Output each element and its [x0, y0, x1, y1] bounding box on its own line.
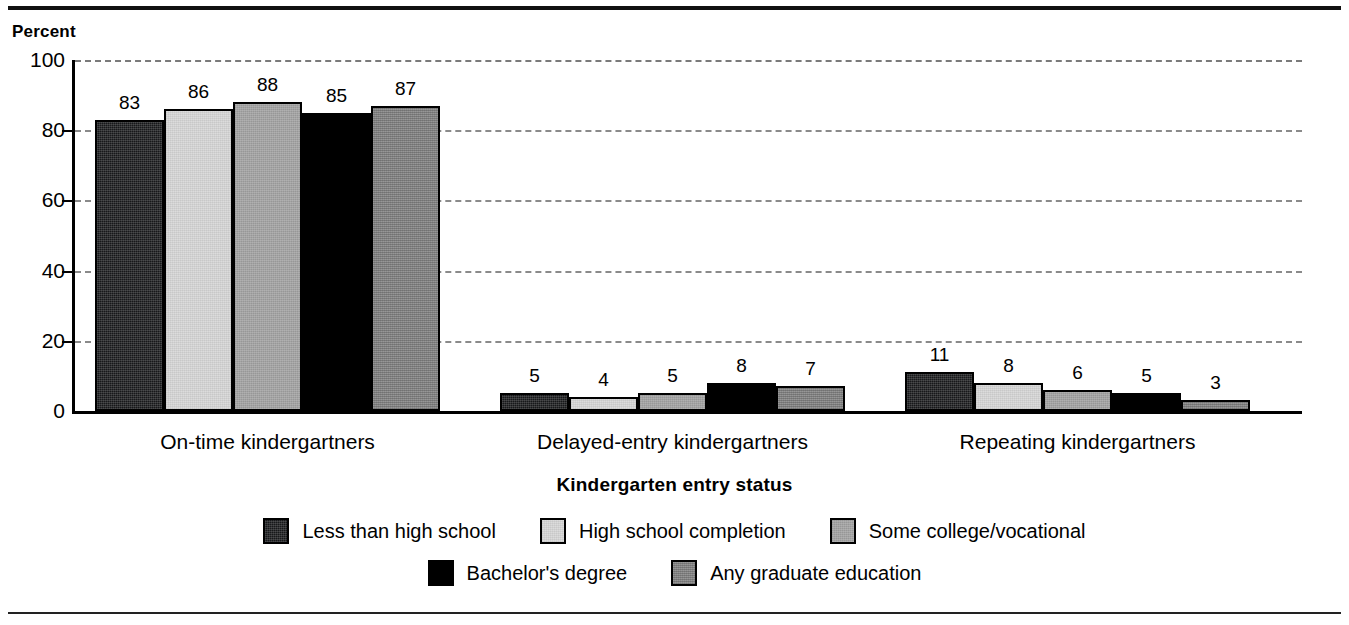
bar[interactable]: [302, 113, 371, 411]
bar-value-label: 7: [805, 358, 816, 380]
bar-value-label: 83: [119, 92, 140, 114]
bar-value-label: 4: [598, 369, 609, 391]
legend-swatch-icon: [671, 560, 697, 586]
bar[interactable]: [1112, 393, 1181, 411]
y-tick-label-0: 0: [5, 399, 65, 423]
bar-value-label: 8: [1003, 355, 1014, 377]
bar-value-label: 86: [188, 81, 209, 103]
y-tick-label-40: 40: [5, 259, 65, 283]
legend-swatch-icon: [830, 518, 856, 544]
x-axis-line: [72, 411, 1302, 414]
bar-value-label: 87: [395, 78, 416, 100]
bar[interactable]: [164, 109, 233, 411]
bar-value-label: 5: [529, 365, 540, 387]
legend-label: Any graduate education: [710, 562, 921, 585]
bar-value-label: 85: [326, 85, 347, 107]
legend-label: Some college/vocational: [869, 520, 1086, 543]
bar[interactable]: [776, 386, 845, 411]
x-axis-title: Kindergarten entry status: [0, 474, 1349, 496]
legend-label: Bachelor's degree: [467, 562, 628, 585]
legend-row-2: Bachelor's degreeAny graduate education: [0, 560, 1349, 586]
y-tick-60: [62, 200, 75, 202]
bar[interactable]: [233, 102, 302, 411]
bar-value-label: 11: [930, 344, 950, 366]
bottom-divider-rule: [8, 612, 1341, 614]
bar[interactable]: [974, 383, 1043, 411]
y-tick-label-80: 80: [5, 118, 65, 142]
bar-value-label: 3: [1210, 372, 1221, 394]
y-tick-40: [62, 271, 75, 273]
y-tick-20: [62, 341, 75, 343]
legend-item[interactable]: Any graduate education: [671, 560, 921, 586]
y-tick-80: [62, 130, 75, 132]
legend-label: Less than high school: [302, 520, 495, 543]
bar[interactable]: [707, 383, 776, 411]
legend-item[interactable]: Bachelor's degree: [428, 560, 628, 586]
legend-label: High school completion: [579, 520, 786, 543]
gridline-100: [75, 60, 1302, 62]
legend-row-1: Less than high schoolHigh school complet…: [0, 518, 1349, 544]
bar[interactable]: [1181, 400, 1250, 411]
bar-value-label: 5: [667, 365, 678, 387]
bar-value-label: 5: [1141, 365, 1152, 387]
legend-swatch-icon: [428, 560, 454, 586]
top-divider-rule: [8, 6, 1341, 10]
y-tick-label-20: 20: [5, 329, 65, 353]
x-category-label: Repeating kindergartners: [960, 430, 1196, 454]
bar-value-label: 88: [257, 74, 278, 96]
legend-swatch-icon: [540, 518, 566, 544]
y-axis-title: Percent: [12, 22, 76, 42]
legend-item[interactable]: High school completion: [540, 518, 786, 544]
y-tick-label-100: 100: [5, 48, 65, 72]
bar[interactable]: [1043, 390, 1112, 411]
bar[interactable]: [95, 120, 164, 411]
x-category-label: Delayed-entry kindergartners: [537, 430, 808, 454]
x-category-label: On-time kindergartners: [160, 430, 375, 454]
plot-area: 838688858754587118653: [75, 60, 1302, 411]
bar[interactable]: [569, 397, 638, 411]
bar-value-label: 6: [1072, 362, 1083, 384]
bar[interactable]: [638, 393, 707, 411]
bar-value-label: 8: [736, 355, 747, 377]
legend-swatch-icon: [263, 518, 289, 544]
legend-item[interactable]: Less than high school: [263, 518, 495, 544]
y-tick-label-60: 60: [5, 188, 65, 212]
y-axis-line: [72, 60, 75, 411]
bar[interactable]: [905, 372, 974, 411]
bar[interactable]: [371, 106, 440, 411]
bar[interactable]: [500, 393, 569, 411]
legend-item[interactable]: Some college/vocational: [830, 518, 1086, 544]
